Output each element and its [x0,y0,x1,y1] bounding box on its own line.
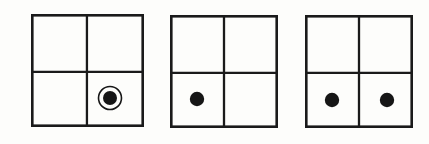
figure-2 [170,15,278,128]
dot-marker-bottom-left [325,93,339,107]
marker-dot [103,91,117,105]
figure-3 [305,15,413,128]
marker-dot [190,92,204,106]
marker-dot [380,93,394,107]
marker-dot [325,93,339,107]
grid-3 [305,15,413,128]
grid-2 [170,15,278,128]
grid-1 [31,14,144,127]
figure-1 [31,14,144,127]
ringed-dot-marker-bottom-right [99,87,122,110]
diagram-canvas [0,0,429,144]
dot-marker-bottom-right [380,93,394,107]
dot-marker-bottom-left [190,92,204,106]
